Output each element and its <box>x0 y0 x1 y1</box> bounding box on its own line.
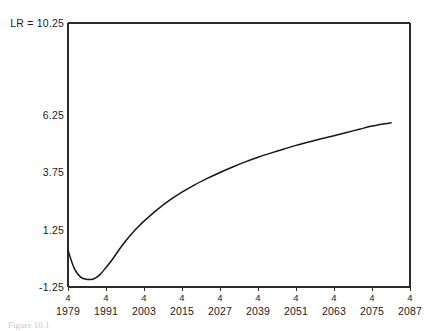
x-axis-quarter-label: 4 <box>407 292 412 303</box>
x-axis-year-label: 2039 <box>246 305 270 317</box>
y-axis-tick-label: 6.25 <box>43 109 64 121</box>
x-axis-year-label: 2051 <box>284 305 308 317</box>
x-axis-quarter-label: 4 <box>179 292 184 303</box>
figure-caption: Figure 10.1 <box>8 320 50 330</box>
x-axis-quarter-label: 4 <box>217 292 222 303</box>
y-axis-tick-label: 3.75 <box>43 166 64 178</box>
line-chart: 6.253.751.25-1.25 LR = 10.25 41979419914… <box>0 0 432 331</box>
x-axis-year-label: 2087 <box>398 305 422 317</box>
x-axis-year-label: 1991 <box>94 305 118 317</box>
x-axis-quarter-label: 4 <box>293 292 298 303</box>
y-axis-tick-label: 1.25 <box>43 224 64 236</box>
x-axis-quarter-label: 4 <box>255 292 260 303</box>
x-axis-tick-labels: 4197941991420034201542027420394205142063… <box>56 292 422 317</box>
x-axis-year-label: 2027 <box>208 305 232 317</box>
x-axis-ticks <box>68 287 410 291</box>
x-axis-year-label: 2075 <box>360 305 384 317</box>
x-axis-quarter-label: 4 <box>103 292 108 303</box>
x-axis-quarter-label: 4 <box>65 292 70 303</box>
x-axis-year-label: 1979 <box>56 305 80 317</box>
figure-container: 6.253.751.25-1.25 LR = 10.25 41979419914… <box>0 0 432 331</box>
x-axis-year-label: 2015 <box>170 305 194 317</box>
y-axis-max-label: LR = 10.25 <box>10 17 64 29</box>
x-axis-quarter-label: 4 <box>369 292 374 303</box>
x-axis-year-label: 2003 <box>132 305 156 317</box>
y-axis-tick-label: -1.25 <box>39 281 64 293</box>
axis-frame <box>68 23 410 287</box>
y-axis-tick-labels: 6.253.751.25-1.25 <box>39 109 64 293</box>
x-axis-year-label: 2063 <box>322 305 346 317</box>
series-line-lr <box>68 123 391 280</box>
x-axis-quarter-label: 4 <box>331 292 336 303</box>
plot-axes <box>68 23 410 287</box>
x-axis-quarter-label: 4 <box>141 292 146 303</box>
